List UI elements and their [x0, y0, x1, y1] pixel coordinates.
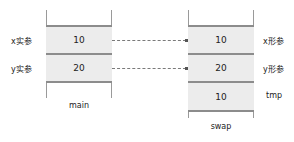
- swap-cell-y-label: y形参: [263, 63, 284, 74]
- main-frame-title: main: [46, 101, 112, 110]
- main-cell-y-value: 20: [73, 63, 84, 73]
- swap-cell-x-label: x形参: [263, 35, 284, 46]
- swap-cell-tmp-value: 10: [215, 92, 226, 102]
- main-cell-x-label: x实参: [11, 35, 32, 46]
- arrow-y-to-y: [112, 68, 186, 69]
- arrow-x-to-x: [112, 40, 186, 41]
- main-cell-y: 20: [46, 53, 112, 83]
- main-cell-y-label: y实参: [11, 63, 32, 74]
- main-cell-x: 10: [46, 25, 112, 55]
- swap-cell-tmp-label: tmp: [266, 91, 282, 100]
- swap-cell-y: 20: [188, 53, 254, 83]
- swap-cell-y-value: 20: [215, 63, 226, 73]
- swap-cell-x-value: 10: [215, 35, 226, 45]
- swap-frame-title: swap: [188, 122, 254, 131]
- swap-cell-x: 10: [188, 25, 254, 55]
- main-cell-x-value: 10: [73, 35, 84, 45]
- swap-cell-tmp: 10: [188, 81, 254, 112]
